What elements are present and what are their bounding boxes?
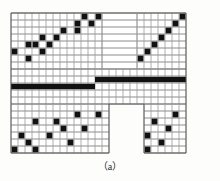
figure-container: （a） — [0, 0, 220, 181]
sparsity-grid — [0, 0, 220, 181]
figure-caption: （a） — [0, 158, 220, 173]
